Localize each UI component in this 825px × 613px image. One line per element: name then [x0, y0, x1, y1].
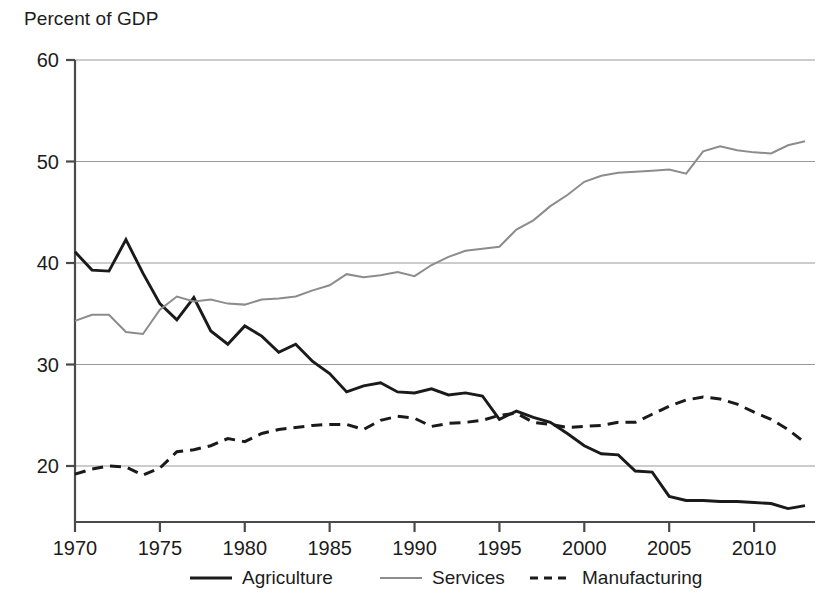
tick-marks — [66, 60, 754, 532]
x-tick-label-1975: 1975 — [138, 537, 183, 559]
series-line-agriculture — [75, 240, 805, 509]
line-chart-plot: 2030405060 19701975198019851990199520002… — [0, 0, 825, 613]
axes — [75, 60, 815, 522]
y-tick-label-60: 60 — [37, 49, 59, 71]
y-tick-label-30: 30 — [37, 354, 59, 376]
series-line-manufacturing — [75, 397, 805, 475]
data-series-layer — [75, 141, 805, 508]
x-tick-label-2010: 2010 — [732, 537, 777, 559]
x-tick-label-2000: 2000 — [562, 537, 607, 559]
legend-item-manufacturing[interactable]: Manufacturing — [530, 567, 702, 588]
x-tick-label-1990: 1990 — [392, 537, 437, 559]
legend-label-manufacturing: Manufacturing — [582, 567, 702, 588]
gridlines — [75, 60, 815, 466]
y-tick-label-20: 20 — [37, 455, 59, 477]
y-tick-label-40: 40 — [37, 252, 59, 274]
x-tick-label-1970: 1970 — [53, 537, 98, 559]
chart-container: Percent of GDP 2030405060 19701975198019… — [0, 0, 825, 613]
legend-item-services[interactable]: Services — [380, 567, 505, 588]
y-tick-label-50: 50 — [37, 151, 59, 173]
x-tick-label-1995: 1995 — [477, 537, 522, 559]
x-tick-label-1985: 1985 — [307, 537, 352, 559]
chart-legend: AgricultureServicesManufacturing — [190, 567, 702, 588]
x-axis-tick-labels: 197019751980198519901995200020052010 — [53, 537, 777, 559]
x-tick-label-1980: 1980 — [223, 537, 268, 559]
legend-label-agriculture: Agriculture — [242, 567, 333, 588]
y-axis-tick-labels: 2030405060 — [37, 49, 59, 477]
x-tick-label-2005: 2005 — [647, 537, 692, 559]
series-line-services — [75, 141, 805, 334]
y-axis-title: Percent of GDP — [24, 8, 158, 30]
legend-item-agriculture[interactable]: Agriculture — [190, 567, 333, 588]
legend-label-services: Services — [432, 567, 505, 588]
